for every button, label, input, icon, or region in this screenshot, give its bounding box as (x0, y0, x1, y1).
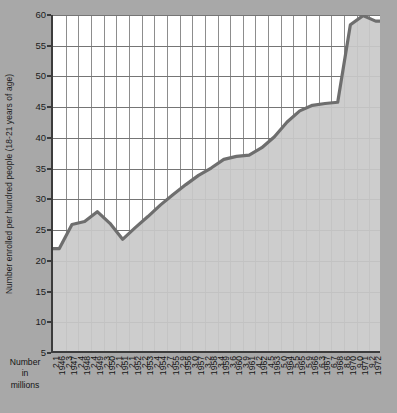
y-axis-tick-label: 10 (35, 318, 46, 328)
x-axis-tick-group: 2.11952 (127, 356, 140, 413)
y-axis-tick-label: 35 (35, 164, 46, 174)
y-axis-tick-label: 15 (35, 287, 46, 297)
x-axis-tick-group: 2.21953 (140, 356, 153, 413)
x-axis-tick-group: 2.41954 (152, 356, 165, 413)
y-axis-ticks: 60555045403530252015105 (0, 0, 51, 413)
x-axis-tick-group: 6.31967 (317, 356, 330, 413)
x-axis-tick-group: 2.11946 (51, 356, 64, 413)
x-axis-tick-group: 6.71968 (329, 356, 342, 413)
area-fill-path (53, 16, 380, 353)
plot-area (51, 15, 380, 353)
x-axis-labels: 2.119462.319472.419482.419492.319502.119… (51, 356, 380, 413)
x-axis-tick-group: 5.51965 (291, 356, 304, 413)
x-axis-series-label-line: Number (1, 357, 49, 368)
x-axis-year-label: 1972 (374, 356, 383, 375)
chart-figure: Number enrolled per hundred people (18-2… (0, 0, 397, 413)
x-axis-tick-group: 4.21962 (253, 356, 266, 413)
x-axis-tick-group: 3.21958 (203, 356, 216, 413)
x-axis-tick-group: 3.01957 (190, 356, 203, 413)
x-axis-tick-group: 3.61960 (228, 356, 241, 413)
x-axis-tick-group: 2.91956 (178, 356, 191, 413)
y-axis-tick-label: 30 (35, 195, 46, 205)
x-axis-tick-group: 3.91961 (241, 356, 254, 413)
x-axis-tick-group: 8.61970 (342, 356, 355, 413)
x-axis-series-label-line: in (1, 368, 49, 379)
y-axis-tick-label: 60 (35, 10, 46, 20)
x-axis-tick-group: 2.71955 (165, 356, 178, 413)
y-axis-tick-label: 45 (35, 102, 46, 112)
x-axis-series-label: Numberinmillions (1, 357, 49, 391)
x-axis-tick-group: 2.41949 (89, 356, 102, 413)
x-axis-tick-group: 4.51963 (266, 356, 279, 413)
y-axis-tick-label: 20 (35, 256, 46, 266)
x-axis-tick-group: 5.91966 (304, 356, 317, 413)
x-axis-series-label-line: millions (1, 380, 49, 391)
x-axis-tick-group: 3.41959 (216, 356, 229, 413)
x-axis-tick-group: 5.01964 (279, 356, 292, 413)
x-axis-tick-group: 2.41948 (76, 356, 89, 413)
y-axis-tick-label: 25 (35, 225, 46, 235)
x-axis-tick-group: 9.21972 (367, 356, 380, 413)
x-axis-tick-group: 2.31950 (102, 356, 115, 413)
x-axis-tick-group: 9.01971 (355, 356, 368, 413)
y-axis-tick-label: 50 (35, 72, 46, 82)
enrollment-area-chart (53, 15, 380, 353)
y-axis-tick-label: 40 (35, 133, 46, 143)
y-axis-tick-label: 55 (35, 41, 46, 51)
x-axis-tick-group: 2.11951 (114, 356, 127, 413)
x-axis-tick-group: 2.31947 (64, 356, 77, 413)
